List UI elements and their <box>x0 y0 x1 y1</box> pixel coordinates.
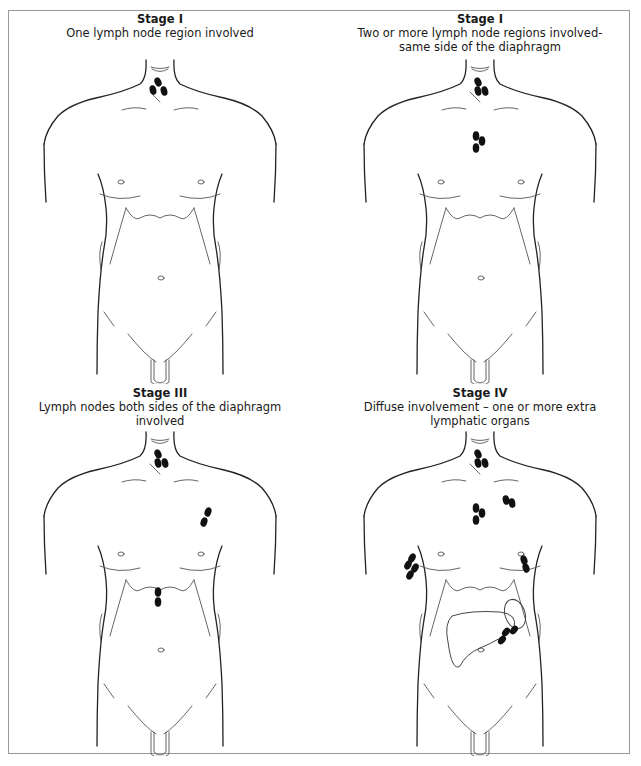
panel-stage-3: Stage III Lymph nodes both sides of the … <box>0 384 320 756</box>
torso-diagram <box>0 12 320 384</box>
torso-diagram <box>320 12 640 384</box>
panel-stage-1-single: Stage I One lymph node region involved <box>0 12 320 384</box>
panel-stage-4: Stage IV Diffuse involvement – one or mo… <box>320 384 640 756</box>
torso-diagram <box>320 384 640 756</box>
panel-stage-1-multiple: Stage I Two or more lymph node regions i… <box>320 12 640 384</box>
torso-diagram <box>0 384 320 756</box>
